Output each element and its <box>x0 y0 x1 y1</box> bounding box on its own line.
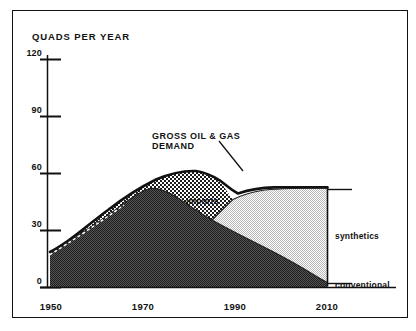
gross-demand-callout-line2: DEMAND <box>152 141 195 152</box>
y-axis-title: QUADS PER YEAR <box>32 31 130 42</box>
x-tick-label-1970: 1970 <box>123 301 163 312</box>
imports-area-label: Imports <box>186 196 219 206</box>
x-tick-label-1990: 1990 <box>215 301 255 312</box>
y-tick-label-90: 90 <box>16 105 42 115</box>
x-tick-label-1950: 1950 <box>31 301 71 312</box>
gross-demand-leader-line <box>219 141 243 171</box>
x-tick-label-2010: 2010 <box>307 301 347 312</box>
synthetics-label: synthetics <box>335 231 379 241</box>
y-tick-label-30: 30 <box>16 219 42 229</box>
y-tick-label-0: 0 <box>16 276 42 286</box>
y-tick-label-120: 120 <box>16 48 42 58</box>
y-tick-label-60: 60 <box>16 162 42 172</box>
gross-demand-callout-line1: GROSS OIL & GAS <box>152 131 240 142</box>
chart-figure: QUADS PER YEAR 120 90 60 30 0 1950 1970 … <box>0 0 416 331</box>
conventional-label: conventional <box>335 280 390 290</box>
